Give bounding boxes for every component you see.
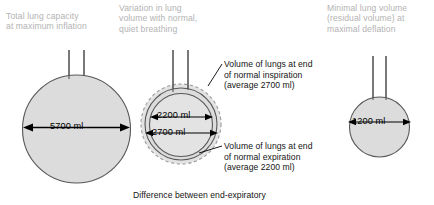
- flask-tidal-variation: [141, 50, 221, 164]
- diagram-caption: Difference between end-expiratory: [133, 190, 266, 201]
- lung-volume-diagram: Total lung capacity at maximum inflation…: [0, 0, 434, 205]
- dimension-label-5700: 5700 ml: [50, 122, 83, 131]
- trachea-tube-right-overlay: [373, 56, 386, 100]
- lung-balloon-2200: [150, 94, 213, 157]
- callout-end-expiration: Volume of lungs at end of normal expirat…: [224, 141, 364, 173]
- flask-total-lung-capacity: [23, 50, 131, 183]
- dimension-label-1200: 1200 ml: [352, 117, 385, 126]
- callout-end-inspiration: Volume of lungs at end of normal inspira…: [224, 59, 364, 91]
- dimension-label-2200: 2200 ml: [157, 111, 190, 120]
- leader-line-end-inspiration: [208, 64, 222, 86]
- diagram-artwork: [0, 0, 434, 205]
- dimension-label-2700: 2700 ml: [152, 128, 185, 137]
